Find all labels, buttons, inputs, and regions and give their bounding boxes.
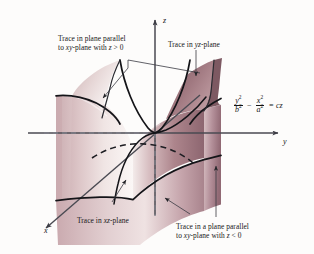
callout-trace-xz-plane: Trace in xz-plane: [77, 216, 129, 225]
equation-den-exp-2: 2: [261, 103, 264, 109]
callout-text-pre: to: [58, 43, 66, 52]
callout-line-1: Trace in plane parallel: [58, 34, 126, 43]
saddle-surface-illustration: [0, 0, 314, 254]
callout-text-rel: > 0: [112, 43, 124, 52]
surface-left-front-face: [56, 96, 133, 200]
callout-text-rel: < 0: [230, 231, 242, 240]
equation-den-exp-1: 2: [239, 103, 242, 109]
callout-text-post: -plane with: [191, 231, 227, 240]
callout-text-post: -plane with: [73, 43, 109, 52]
equation-fraction-1: y2 b2: [234, 97, 243, 115]
equation-denominator-1: b2: [234, 106, 243, 114]
equation-fraction-2: x2 a2: [256, 97, 265, 115]
equation-num-exp-1: 2: [239, 94, 242, 100]
callout-trace-yz-plane: Trace in yz-plane: [168, 40, 220, 49]
equation-right-hand-side: = cz: [266, 101, 284, 110]
figure-container: Trace in plane parallel to xy-plane with…: [0, 0, 314, 254]
callout-text-pre: Trace in: [168, 40, 195, 49]
callout-line-2: to xy-plane with z > 0: [58, 43, 126, 52]
callout-line-1: Trace in yz-plane: [168, 40, 220, 49]
surface-left-outer-slab: [56, 96, 62, 200]
callout-line-2: to xy-plane with z < 0: [176, 231, 249, 240]
callout-text-italic: xy: [66, 43, 73, 52]
callout-text-pre: Trace in: [77, 216, 104, 225]
callout-text-pre: to: [176, 231, 184, 240]
axis-label-x: x: [44, 226, 48, 235]
callout-text-post: -plane: [201, 40, 220, 49]
equation-num-exp-2: 2: [260, 94, 263, 100]
equation-denominator-2: a2: [256, 106, 265, 114]
callout-text-italic: xy: [184, 231, 191, 240]
callout-trace-parallel-xy-negative: Trace in a plane parallel to xy-plane wi…: [176, 222, 249, 240]
callout-line-1: Trace in xz-plane: [77, 216, 129, 225]
equation-minus-operator: −: [245, 101, 254, 110]
callout-text-post: -plane: [110, 216, 129, 225]
surface-equation: y2 b2 − x2 a2 = cz: [234, 97, 285, 115]
axis-label-z: z: [163, 16, 166, 25]
axis-label-y: y: [283, 137, 287, 146]
callout-trace-parallel-xy-positive: Trace in plane parallel to xy-plane with…: [58, 34, 126, 52]
callout-line-1: Trace in a plane parallel: [176, 222, 249, 231]
